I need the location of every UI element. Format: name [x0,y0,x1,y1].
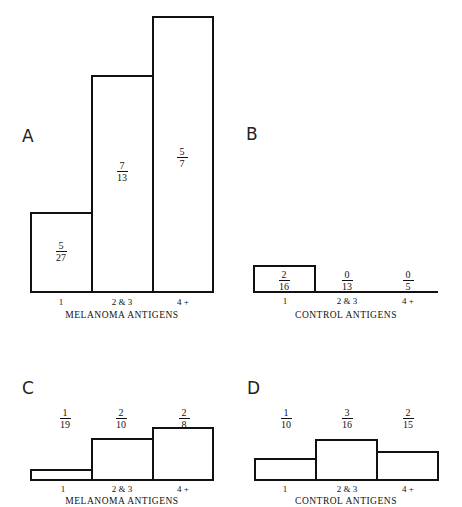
tick-d-2: 2 & 3 [316,484,378,494]
panel-letter-a: A [22,126,34,146]
panel-letter-c: C [22,378,34,398]
frac-b-1: 216 [269,269,299,292]
frac-b-3: 05 [393,269,423,292]
frac-c-2: 210 [106,407,136,430]
tick-c-1: 1 [32,484,94,494]
panel-letter-d: D [247,378,260,398]
tick-a-2: 2 & 3 [91,297,153,307]
bar-c-1 [30,469,93,481]
xlabel-d: CONTROL ANTIGENS [254,496,438,506]
frac-c-1: 119 [50,407,80,430]
xlabel-b: CONTROL ANTIGENS [254,310,438,320]
bar-d-3 [376,451,439,481]
bar-d-1 [254,458,317,481]
tick-d-1: 1 [254,484,316,494]
frac-a-1: 527 [46,240,76,263]
frac-d-3: 215 [393,407,423,430]
tick-a-1: 1 [30,297,92,307]
tick-a-3: 4 + [152,297,214,307]
bar-c-2 [91,438,154,481]
tick-c-2: 2 & 3 [91,484,153,494]
bar-d-2 [315,439,378,481]
frac-a-3: 57 [167,146,197,169]
bar-c-3 [152,427,214,481]
frac-d-2: 316 [332,407,362,430]
tick-b-3: 4 + [377,296,439,306]
tick-c-3: 4 + [152,484,214,494]
frac-d-1: 110 [271,407,301,430]
frac-b-2: 013 [332,269,362,292]
frac-a-2: 713 [107,160,137,183]
bar-a-2 [91,75,154,293]
panel-letter-b: B [246,124,258,144]
frac-c-3: 28 [169,407,199,430]
tick-d-3: 4 + [377,484,439,494]
xlabel-c: MELANOMA ANTIGENS [30,496,214,506]
tick-b-2: 2 & 3 [316,296,378,306]
xlabel-a: MELANOMA ANTIGENS [30,310,214,320]
tick-b-1: 1 [254,296,316,306]
